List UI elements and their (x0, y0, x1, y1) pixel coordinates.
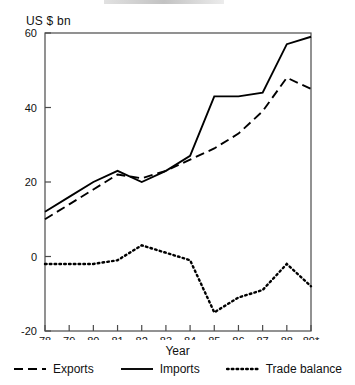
legend-label: Imports (160, 362, 200, 376)
x-axis-tick-label: 78 (39, 335, 51, 340)
line-chart-plot: 6040200-20787980818283848586878889* (0, 0, 355, 340)
chart-root: US $ bn 6040200-207879808182838485868788… (0, 0, 355, 385)
x-axis-title: Year (0, 344, 355, 358)
x-axis-tick-label: 84 (184, 335, 196, 340)
legend-swatch-solid (120, 364, 154, 374)
x-axis-tick-label: 80 (87, 335, 99, 340)
x-axis-tick-label: 83 (160, 335, 172, 340)
series-line-trade-balance (45, 245, 311, 312)
legend-label: Trade balance (266, 362, 342, 376)
chart-legend: ExportsImportsTrade balance (0, 362, 355, 376)
legend-label: Exports (53, 362, 94, 376)
legend-item-imports: Imports (120, 362, 200, 376)
y-axis-tick-label: 40 (25, 102, 37, 114)
y-axis-tick-label: 0 (31, 251, 37, 263)
x-axis-tick-label: 89* (303, 335, 320, 340)
x-axis-tick-label: 81 (111, 335, 123, 340)
y-axis-tick-label: -20 (21, 325, 37, 337)
x-axis-tick-label: 79 (63, 335, 75, 340)
series-line-imports (45, 37, 311, 212)
y-axis-tick-label: 60 (25, 27, 37, 39)
x-axis-tick-label: 87 (257, 335, 269, 340)
x-axis-tick-label: 86 (232, 335, 244, 340)
x-axis-tick-label: 82 (136, 335, 148, 340)
x-axis-tick-label: 85 (208, 335, 220, 340)
x-axis-tick-label: 88 (281, 335, 293, 340)
series-line-exports (45, 78, 311, 220)
y-axis-tick-label: 20 (25, 176, 37, 188)
legend-swatch-dashed (13, 364, 47, 374)
legend-swatch-dotted (226, 364, 260, 374)
legend-item-trade-balance: Trade balance (226, 362, 342, 376)
legend-item-exports: Exports (13, 362, 94, 376)
